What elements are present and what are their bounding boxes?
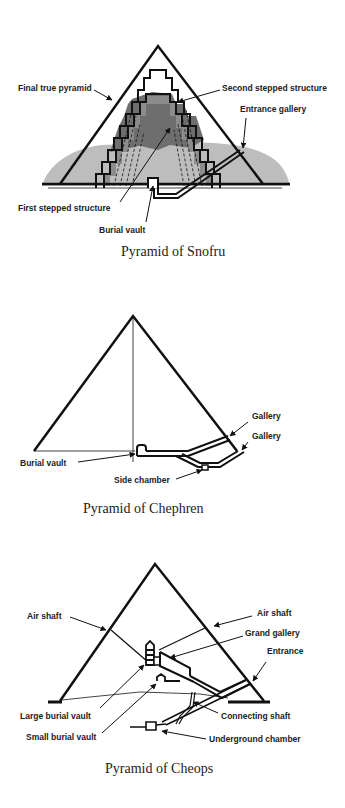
label-gallery-upper: Gallery: [252, 411, 281, 421]
label-large-burial-vault: Large burial vault: [20, 711, 91, 721]
label-gallery-lower: Gallery: [252, 431, 281, 441]
pyramids-diagram: Final true pyramid Second stepped struct…: [0, 0, 345, 808]
label-small-burial-vault: Small burial vault: [26, 732, 97, 742]
chephren-burial-vault: [137, 445, 146, 456]
label-grand-gallery: Grand gallery: [245, 628, 300, 638]
snofru-figure: Final true pyramid Second stepped struct…: [18, 46, 327, 259]
cheops-underground-chamber: [130, 722, 166, 730]
chephren-side-chamber: [202, 465, 208, 470]
label-side-chamber: Side chamber: [114, 475, 170, 485]
caption-chephren: Pyramid of Chephren: [83, 501, 204, 516]
cheops-small-burial-vault: [157, 674, 180, 681]
cheops-connecting-shaft: [176, 692, 195, 724]
label-air-shaft-left: Air shaft: [27, 611, 62, 621]
cheops-air-shaft-left: [111, 630, 148, 662]
label-entrance: Entrance: [267, 646, 304, 656]
cheops-ground-line: [62, 692, 228, 700]
chephren-figure: Gallery Gallery Burial vault Side chambe…: [20, 316, 281, 516]
chephren-pyramid-outline: [34, 316, 237, 451]
cheops-large-burial-vault: [146, 641, 154, 665]
label-burial-vault-chephren: Burial vault: [20, 458, 66, 468]
caption-snofru: Pyramid of Snofru: [121, 244, 225, 259]
chephren-upper-gallery: [137, 436, 230, 456]
label-connecting-shaft: Connecting shaft: [221, 711, 291, 721]
label-second-stepped-structure: Second stepped structure: [222, 83, 327, 93]
label-air-shaft-right: Air shaft: [257, 608, 292, 618]
label-final-true-pyramid: Final true pyramid: [18, 83, 92, 93]
chephren-lower-gallery: [176, 451, 244, 467]
caption-cheops: Pyramid of Cheops: [105, 761, 213, 776]
cheops-figure: Air shaft Air shaft Grand gallery Entran…: [20, 564, 304, 776]
label-first-stepped-structure: First stepped structure: [18, 203, 111, 213]
cheops-entrance-passage: [190, 676, 250, 698]
cheops-air-shaft-right: [159, 628, 205, 650]
label-underground-chamber: Underground chamber: [209, 734, 301, 744]
label-entrance-gallery: Entrance gallery: [240, 104, 306, 114]
label-burial-vault: Burial vault: [99, 225, 145, 235]
snofru-ground-mound: [42, 142, 290, 186]
